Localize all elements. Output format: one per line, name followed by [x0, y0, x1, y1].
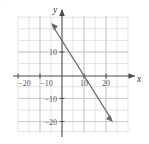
x-axis-label: x [136, 74, 142, 84]
y-tick-label-neg20: −20 [44, 118, 57, 127]
y-axis-label: y [52, 5, 58, 15]
y-tick-label-10: 10 [49, 48, 57, 57]
corner-mark: · [3, 3, 5, 9]
x-tick-label-neg10: −10 [40, 79, 53, 88]
x-tick-label-20: 20 [102, 79, 110, 88]
y-tick-label-neg10: −10 [44, 95, 57, 104]
coordinate-plane-svg: −20 −10 10 20 10 −10 −20 x y · [0, 0, 149, 144]
graph-figure: −20 −10 10 20 10 −10 −20 x y · [0, 0, 149, 144]
x-tick-label-neg20: −20 [18, 79, 31, 88]
x-tick-label-10: 10 [80, 79, 88, 88]
figure-background [0, 0, 149, 144]
